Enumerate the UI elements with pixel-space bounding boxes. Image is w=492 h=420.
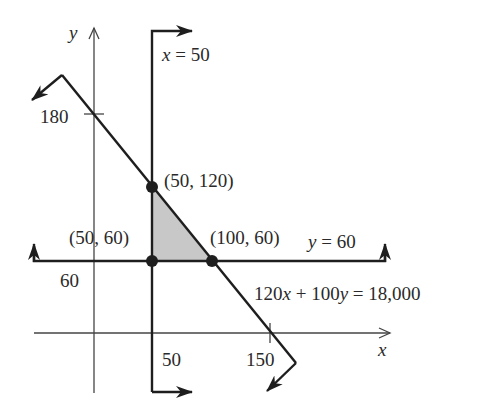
vertex-100-60 [206,255,218,267]
vertex-label-100-60: (100, 60) [210,227,280,249]
x-tick-label-150: 150 [246,349,275,370]
line-120x-100y-18000 [62,75,296,363]
vertex-50-60 [146,255,158,267]
vertex-50-120 [146,181,158,193]
y-axis-label: y [67,22,78,43]
x-tick-label-50: 50 [162,349,181,370]
y-tick-label-60: 60 [60,270,79,291]
y-tick-label-180: 180 [40,106,69,127]
feasible-region-diagram: y x 180 60 50 150 x = 50 y = 60 120x + 1… [0,0,492,420]
label-y-equals-60: y = 60 [306,231,356,252]
vertex-label-50-120: (50, 120) [164,170,234,192]
diagonal-top-arrow [32,75,62,100]
vertex-label-50-60: (50, 60) [69,227,129,249]
x-axis-label: x [377,339,387,360]
label-x-equals-50: x = 50 [161,44,210,65]
label-diagonal-equation: 120x + 100y = 18,000 [254,283,421,304]
